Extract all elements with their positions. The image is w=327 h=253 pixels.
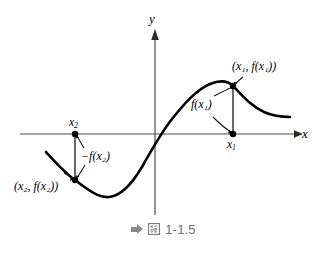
point-label-x1: x1 <box>227 139 236 152</box>
y-axis-arrowhead <box>151 29 159 40</box>
figure-container: x y x2 x1 (x₁, f(x₁)) (x₂, f(x₂)) f(x₁) … <box>0 0 327 253</box>
y-axis <box>151 29 159 215</box>
dot-x1-curve <box>230 83 236 89</box>
point-label-x2: x2 <box>69 117 78 130</box>
fx1-label: f(x₁) <box>191 98 212 110</box>
dot-x2-curve <box>72 177 78 183</box>
caption-text: 1-1.5 <box>165 223 196 236</box>
dot-x2-axis <box>72 131 78 137</box>
caption-arrow-icon <box>131 224 143 235</box>
x-axis-label: x <box>302 127 308 140</box>
coordinate-label-x2: (x₂, f(x₂)) <box>14 180 58 192</box>
y-axis-label: y <box>149 12 155 25</box>
dot-x1-axis <box>230 131 236 137</box>
fx1-leader-arrows <box>213 85 236 134</box>
coordinate-label-x1: (x₁, f(x₁)) <box>232 60 276 72</box>
cjk-figure-glyph-icon <box>148 223 160 235</box>
function-curve <box>46 82 290 198</box>
figure-caption: 1-1.5 <box>0 216 327 242</box>
negfx2-label: −f(x₂) <box>81 150 110 162</box>
